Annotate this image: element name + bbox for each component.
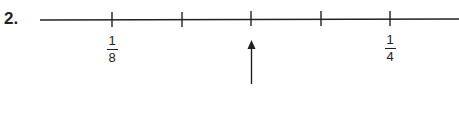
number-line-axis <box>40 19 459 20</box>
arrow-icon <box>248 40 256 84</box>
numerator: 1 <box>380 33 400 47</box>
fraction-label-one-quarter: 1 4 <box>380 33 400 64</box>
denominator: 4 <box>380 50 400 64</box>
fraction-label-one-eighth: 1 8 <box>102 34 122 65</box>
denominator: 8 <box>102 51 122 65</box>
numerator: 1 <box>102 34 122 48</box>
